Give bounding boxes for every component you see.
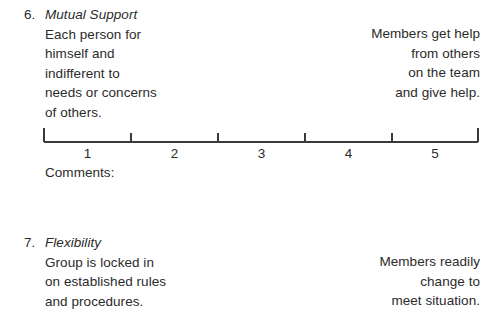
anchor-line: on the team (270, 63, 480, 83)
anchor-line: of others. (45, 103, 225, 123)
comments-label: Comments: (45, 163, 114, 182)
anchor-line: on established rules (45, 272, 225, 292)
rating-scale[interactable]: 12345 (0, 128, 504, 166)
item-number: 6. (24, 5, 35, 24)
right-anchor-description: Members readily change to meet situation… (270, 252, 480, 311)
left-anchor-description: Mutual Support Each person for himself a… (45, 5, 225, 123)
scale-point-5[interactable]: 5 (420, 144, 450, 163)
anchor-line: change to (270, 272, 480, 292)
item-title: Flexibility (45, 233, 225, 253)
anchor-line: Members get help (270, 24, 480, 44)
anchor-line: Group is locked in (45, 253, 225, 273)
anchor-line: and procedures. (45, 292, 225, 312)
anchor-line: and give help. (270, 83, 480, 103)
survey-page: 6. Mutual Support Each person for himsel… (0, 0, 504, 324)
item-number: 7. (24, 233, 35, 252)
anchor-line: from others (270, 44, 480, 64)
anchor-line: Members readily (270, 252, 480, 272)
item-title: Mutual Support (45, 5, 225, 25)
rating-scale-labels: 12345 (0, 144, 504, 164)
anchor-line: himself and (45, 44, 225, 64)
right-anchor-description: Members get help from others on the team… (270, 24, 480, 102)
left-anchor-description: Flexibility Group is locked in on establ… (45, 233, 225, 311)
scale-point-2[interactable]: 2 (160, 144, 190, 163)
anchor-line: indifferent to (45, 64, 225, 84)
anchor-line: needs or concerns (45, 83, 225, 103)
anchor-line: meet situation. (270, 291, 480, 311)
scale-point-3[interactable]: 3 (247, 144, 277, 163)
anchor-line: Each person for (45, 25, 225, 45)
scale-point-1[interactable]: 1 (73, 144, 103, 163)
scale-point-4[interactable]: 4 (334, 144, 364, 163)
